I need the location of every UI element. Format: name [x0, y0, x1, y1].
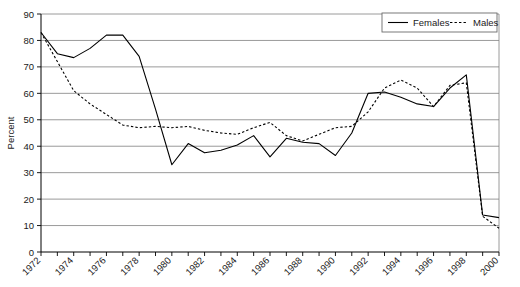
x-tick-label: 1982 — [183, 255, 206, 278]
horizontal-gridlines — [41, 14, 499, 226]
x-tick-label: 1978 — [118, 255, 141, 278]
y-tick-label: 20 — [23, 194, 34, 205]
y-tick-label: 90 — [23, 9, 34, 20]
x-tick-label: 1972 — [20, 255, 43, 278]
x-tick-label: 1990 — [314, 255, 337, 278]
y-tick-label: 40 — [23, 141, 34, 152]
line-chart: 0102030405060708090 19721974197619781980… — [0, 0, 520, 287]
x-tick-label: 2000 — [478, 255, 501, 278]
chart-legend: Females Males — [382, 13, 499, 32]
legend-label-females: Females — [413, 17, 450, 28]
x-tick-label: 1974 — [52, 255, 75, 278]
x-tick-label: 1998 — [445, 255, 468, 278]
legend-label-males: Males — [473, 17, 499, 28]
x-tick-label: 1976 — [85, 255, 108, 278]
x-axis-ticks: 1972197419761978198019821984198619881990… — [20, 252, 501, 277]
y-tick-label: 60 — [23, 88, 34, 99]
x-tick-label: 1992 — [347, 255, 370, 278]
series-line-females — [41, 33, 499, 218]
y-tick-label: 10 — [23, 220, 34, 231]
y-axis-ticks: 0102030405060708090 — [23, 9, 41, 258]
y-tick-label: 50 — [23, 114, 34, 125]
y-tick-label: 30 — [23, 167, 34, 178]
x-tick-label: 1984 — [216, 255, 239, 278]
chart-canvas: 0102030405060708090 19721974197619781980… — [0, 0, 520, 287]
x-tick-label: 1980 — [151, 255, 174, 278]
y-tick-label: 70 — [23, 61, 34, 72]
x-tick-label: 1994 — [380, 255, 403, 278]
x-tick-label: 1986 — [249, 255, 272, 278]
x-tick-label: 1996 — [412, 255, 435, 278]
y-tick-label: 80 — [23, 35, 34, 46]
x-tick-label: 1988 — [281, 255, 304, 278]
y-axis-title: Percent — [5, 116, 16, 149]
